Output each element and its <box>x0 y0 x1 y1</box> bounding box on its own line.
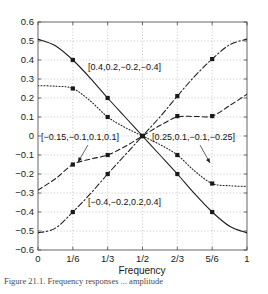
x-tick-label: 1 <box>244 253 249 264</box>
data-marker <box>175 172 179 176</box>
data-marker <box>210 210 214 214</box>
data-marker <box>106 115 110 119</box>
x-tick-label: 1/2 <box>136 253 149 264</box>
data-marker <box>175 153 179 157</box>
y-tick-label: −0.6 <box>15 244 34 255</box>
frequency-response-plot: −0.6−0.5−0.4−0.3−0.2−0.100.10.20.30.40.5… <box>0 0 268 294</box>
data-marker <box>106 172 110 176</box>
data-marker <box>106 96 110 100</box>
y-tick-label: 0.5 <box>21 35 34 46</box>
x-axis-tick-labels: 01/61/31/22/35/61 <box>35 253 249 264</box>
data-marker <box>210 114 214 118</box>
x-tick-label: 1/3 <box>101 253 114 264</box>
y-tick-label: 0.4 <box>21 54 34 65</box>
data-marker <box>140 134 144 138</box>
y-tick-label: −0.4 <box>15 206 34 217</box>
data-marker <box>71 58 75 62</box>
data-marker <box>71 210 75 214</box>
data-marker <box>106 153 110 157</box>
data-marker <box>175 94 179 98</box>
y-tick-label: 0.6 <box>21 16 34 27</box>
annot-left: [−0.15,−0.1,0.1,0.1] <box>41 132 119 142</box>
y-tick-label: −0.1 <box>15 149 34 160</box>
y-tick-label: 0.2 <box>21 92 34 103</box>
y-tick-label: 0.1 <box>21 111 34 122</box>
annot-right: [0.25,0.1,−0.1,−0.25] <box>152 132 235 142</box>
x-axis-title: Frequency <box>118 265 165 276</box>
y-tick-label: 0 <box>29 130 34 141</box>
x-tick-label: 2/3 <box>171 253 184 264</box>
data-marker <box>71 162 75 166</box>
chart-canvas: −0.6−0.5−0.4−0.3−0.2−0.100.10.20.30.40.5… <box>0 0 268 294</box>
data-marker <box>71 86 75 90</box>
annot-top: [0.4,0.2,−0.2,−0.4] <box>88 62 161 72</box>
data-marker <box>210 181 214 185</box>
x-tick-label: 0 <box>35 253 40 264</box>
y-tick-label: −0.2 <box>15 168 34 179</box>
annot-bottom: [−0.4,−0.2,0.2,0.4] <box>88 197 161 207</box>
data-marker <box>210 57 214 61</box>
x-tick-label: 5/6 <box>206 253 219 264</box>
y-tick-label: −0.5 <box>15 225 34 236</box>
y-tick-label: −0.3 <box>15 187 34 198</box>
figure-container: −0.6−0.5−0.4−0.3−0.2−0.100.10.20.30.40.5… <box>0 0 268 294</box>
x-tick-label: 1/6 <box>66 253 79 264</box>
figure-caption: Figure 21.1. Frequency responses ... amp… <box>4 276 266 286</box>
data-marker <box>175 114 179 118</box>
y-tick-label: 0.3 <box>21 73 34 84</box>
